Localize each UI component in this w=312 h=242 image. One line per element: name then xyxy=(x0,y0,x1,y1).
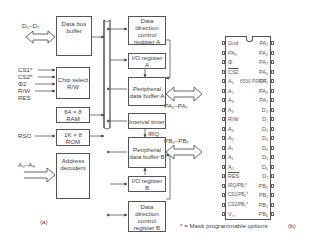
pin-pad xyxy=(271,203,274,207)
chip-select-block: Chip select R/W xyxy=(56,67,90,99)
data-bus-label: D₀–D₇ xyxy=(22,22,39,29)
pin-pad xyxy=(271,127,274,131)
peripheral-data-buffer-b-label: Peripheral data buffer B xyxy=(129,146,165,160)
rw-label: R/W xyxy=(18,87,30,94)
data-bus-buffer-block: Data bus buffer xyxy=(56,16,92,56)
ddr-a-block: Data direction control register A xyxy=(128,16,166,45)
pin-pad xyxy=(271,79,274,83)
cs1-label: CS1* xyxy=(18,66,32,73)
pin-pad xyxy=(271,60,274,64)
pin-pad xyxy=(271,165,274,169)
ddr-b-label: Data direction control register B xyxy=(129,203,165,231)
pin-pad xyxy=(222,165,225,169)
io-register-b-label: I/O register B xyxy=(129,177,165,191)
rom-block: 1K × 8 ROM xyxy=(56,129,90,146)
chip-select-label: Chip select R/W xyxy=(57,76,89,90)
rso-label: RSO xyxy=(18,132,31,139)
pin-left: A₅ xyxy=(228,88,234,94)
pin-right: D₄ xyxy=(262,145,268,151)
ddr-b-block: Data direction control register B xyxy=(128,201,166,232)
peripheral-data-buffer-a-label: Peripheral data buffer A xyxy=(129,85,165,99)
pin-pad xyxy=(222,212,225,216)
pin-pad xyxy=(222,184,225,188)
pin-left: CS2/PB₅* xyxy=(228,202,248,208)
pin-pad xyxy=(271,212,274,216)
pin-pad xyxy=(222,108,225,112)
pin1-notch xyxy=(246,36,253,42)
peripheral-data-buffer-b-block: Peripheral data buffer B xyxy=(128,137,166,168)
pin-left: A₇ xyxy=(228,145,233,151)
pin-left: Gnd xyxy=(228,40,238,46)
pin-pad xyxy=(222,89,225,93)
pin-left: V꜀꜀ xyxy=(228,211,236,217)
pin-pad xyxy=(222,60,225,64)
pinout-package: 6530 PRIOT Gnd PA₀ Φ CS2 A₆ A₅ A₄ A₃ R/W… xyxy=(225,36,271,220)
pin-left: A₁ xyxy=(228,154,233,160)
pin-left: PA₀ xyxy=(228,50,237,56)
pin-left: CS2 xyxy=(228,69,239,75)
pin-right: PA₄ xyxy=(259,69,268,75)
pin-right: D₆ xyxy=(262,164,268,170)
figure-label-a: (a) xyxy=(40,218,48,225)
address-decoders-block: Address decoders xyxy=(56,153,90,199)
pin-right: D₃ xyxy=(262,135,268,141)
pin-right: D₁ xyxy=(262,116,268,122)
io-register-a-block: I/O register A xyxy=(128,53,166,69)
pin-pad xyxy=(271,117,274,121)
pin-right: PB₄ xyxy=(259,211,268,217)
pin-right: PA₅ xyxy=(259,78,268,84)
pin-pad xyxy=(222,79,225,83)
cs2-label: CS2* xyxy=(18,73,32,80)
pin-right: PA₂ xyxy=(259,50,268,56)
pin-pad xyxy=(222,203,225,207)
pin-left: A₈ xyxy=(228,126,234,132)
pin-left: R/W xyxy=(228,116,238,122)
pin-pad xyxy=(222,70,225,74)
pin-right: PA₇ xyxy=(259,97,268,103)
pin-pad xyxy=(271,193,274,197)
pin-right: D₅ xyxy=(262,154,268,160)
phi2-label: Φ2 xyxy=(18,80,26,87)
peripheral-data-buffer-a-block: Peripheral data buffer A xyxy=(128,77,166,106)
address-label: A₀–A₉ xyxy=(18,161,35,168)
address-decoders-label: Address decoders xyxy=(57,157,89,171)
pin-pad xyxy=(271,41,274,45)
pin-pad xyxy=(222,41,225,45)
res-label: RES xyxy=(18,94,31,101)
pin-pad xyxy=(222,51,225,55)
rom-label: 1K × 8 ROM xyxy=(57,131,89,145)
pin-pad xyxy=(222,146,225,150)
pin-pad xyxy=(271,136,274,140)
pin-right: D₂ xyxy=(262,126,268,132)
io-register-b-block: I/O register B xyxy=(128,176,166,192)
pin-left: Φ xyxy=(228,59,232,65)
pin-pad xyxy=(222,193,225,197)
pin-pad xyxy=(222,127,225,131)
pin-left: A₂ xyxy=(228,135,234,141)
pin-right: D₇ xyxy=(262,173,268,179)
io-register-a-label: I/O register A xyxy=(129,54,165,68)
pin-right: PB₀ xyxy=(259,183,268,189)
port-a-label: PA₀–PA₇ xyxy=(164,102,188,109)
pin-pad xyxy=(271,51,274,55)
pin-left: A₄ xyxy=(228,97,234,103)
pin-left: RES xyxy=(228,173,239,179)
footnote: * = Mask programmable options xyxy=(180,222,268,229)
pin-right: PA₃ xyxy=(259,59,268,65)
pin-left: A₀ xyxy=(228,164,234,170)
pin-right: PA₁ xyxy=(259,40,268,46)
pin-right: PB₁ xyxy=(259,192,268,198)
irq-label: IRQ xyxy=(148,130,159,137)
pin-left: A₆ xyxy=(228,78,234,84)
pin-right: PB₂ xyxy=(259,202,268,208)
pin-pad xyxy=(271,70,274,74)
pin-pad xyxy=(222,155,225,159)
pin-pad xyxy=(222,117,225,121)
pin-pad xyxy=(271,108,274,112)
interval-timer-block: Interval timer xyxy=(128,113,166,129)
pin-pad xyxy=(271,184,274,188)
ram-block: 64 × 8 RAM xyxy=(56,107,90,123)
pin-left: IRQ/PB₇* xyxy=(228,183,247,189)
pin-pad xyxy=(222,136,225,140)
pin-left: CS1/PB₆* xyxy=(228,192,248,198)
